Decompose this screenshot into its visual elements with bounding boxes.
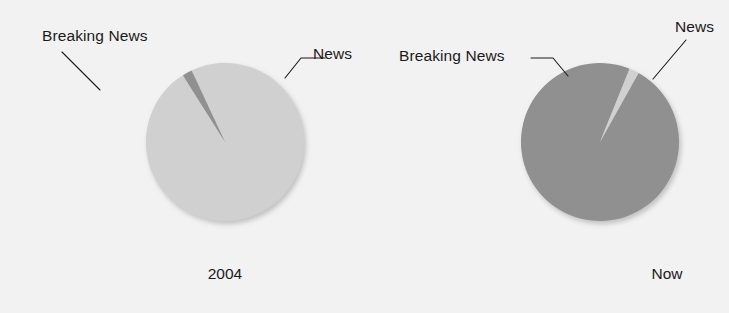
label-breaking-news-2004: Breaking News bbox=[42, 28, 148, 44]
leader-line-news-now bbox=[653, 40, 686, 79]
pie-slices-now bbox=[521, 63, 679, 221]
pie-slices-2004 bbox=[146, 63, 304, 221]
caption-2004: 2004 bbox=[185, 266, 265, 282]
label-news-2004: News bbox=[313, 46, 352, 62]
pie-comparison-figure: Breaking News News 2004 Breaking News bbox=[0, 0, 729, 313]
leader-line-breaking-news-2004 bbox=[62, 52, 100, 90]
pie-panel-2004: Breaking News News 2004 bbox=[0, 0, 364, 313]
label-news-now: News bbox=[675, 19, 714, 35]
caption-now: Now bbox=[627, 266, 707, 282]
pie-chart-2004 bbox=[0, 0, 364, 313]
pie-slice-news-2004 bbox=[146, 63, 304, 221]
label-breaking-news-now: Breaking News bbox=[399, 48, 505, 64]
pie-slice-breaking-news-now bbox=[521, 63, 679, 221]
pie-panel-now: Breaking News News Now bbox=[365, 0, 729, 313]
